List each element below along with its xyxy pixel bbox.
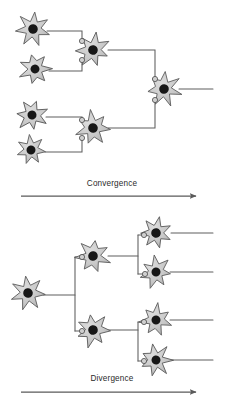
divergence-axon-layer — [43, 233, 213, 361]
synaptic-bouton-div-bouton-4 — [142, 271, 147, 276]
synaptic-bouton-conv-bouton-5 — [152, 76, 157, 81]
convergence-neuron-layer — [13, 10, 183, 164]
neuron-conv-relay-lower — [72, 107, 112, 146]
neuron-conv-relay-upper — [73, 29, 111, 69]
neuron-div-target-2 — [138, 254, 172, 290]
axon-conv-axon-1 — [47, 31, 82, 41]
axon-conv-axon-relay-upper — [108, 50, 155, 79]
panel-convergence: Convergence — [13, 10, 213, 196]
neuron-div-target-3 — [138, 301, 174, 336]
synaptic-bouton-conv-bouton-3 — [79, 117, 84, 122]
axon-conv-axon-4 — [45, 138, 82, 152]
neural-circuit-diagram: Convergence Divergence — [0, 0, 231, 405]
divergence-caption: Divergence — [91, 374, 134, 383]
synaptic-bouton-div-bouton-2 — [79, 328, 84, 333]
neuron-div-target-1 — [138, 214, 174, 250]
neuron-div-relay-upper — [73, 238, 113, 273]
divergence-neuron-layer — [9, 214, 176, 379]
convergence-caption: Convergence — [87, 179, 138, 188]
synaptic-bouton-div-bouton-1 — [79, 254, 84, 259]
neuron-conv-input-2 — [15, 51, 55, 87]
axon-conv-axon-relay-lower — [108, 100, 155, 128]
synaptic-bouton-div-bouton-5 — [141, 319, 146, 324]
panel-divergence: Divergence — [9, 214, 213, 392]
synaptic-bouton-conv-bouton-6 — [152, 97, 157, 102]
neuron-conv-input-3 — [13, 97, 52, 135]
figure-root: Convergence Divergence — [0, 0, 231, 405]
neuron-conv-input-4 — [15, 133, 46, 164]
axon-conv-axon-3 — [46, 117, 82, 120]
neuron-div-source — [9, 274, 47, 311]
axon-conv-axon-2 — [49, 60, 82, 71]
convergence-axon-layer — [45, 31, 213, 152]
synaptic-bouton-div-bouton-3 — [141, 232, 146, 237]
synaptic-bouton-div-bouton-6 — [141, 358, 146, 363]
synaptic-bouton-conv-bouton-4 — [79, 135, 84, 140]
synaptic-bouton-conv-bouton-2 — [79, 57, 84, 62]
neuron-conv-input-1 — [14, 10, 51, 46]
synaptic-bouton-conv-bouton-1 — [79, 38, 84, 43]
